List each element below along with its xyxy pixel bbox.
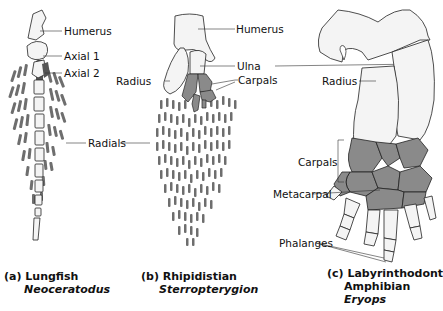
label-carpals-c: Carpals <box>298 156 338 168</box>
labyrinthodont-limb <box>312 10 436 262</box>
label-axial-1: Axial 1 <box>64 50 100 62</box>
label-axial-2: Axial 2 <box>64 67 100 79</box>
rhipidistian-radials <box>155 90 236 246</box>
label-carpals-b: Carpals <box>238 74 278 86</box>
eryops-radius <box>354 66 399 148</box>
label-radius-c: Radius <box>322 75 357 87</box>
caption-c-genus: Eryops <box>327 293 443 306</box>
label-phalanges: Phalanges <box>279 237 333 249</box>
caption-a-genus: Neoceratodus <box>4 283 110 296</box>
label-humerus-b: Humerus <box>236 23 284 35</box>
caption-c-title: (c) Labyrinthodont <box>327 267 443 280</box>
label-humerus-a: Humerus <box>64 25 112 37</box>
caption-b: (b) Rhipidistian Sterropterygion <box>141 270 258 296</box>
caption-b-title: (b) Rhipidistian <box>141 270 237 283</box>
caption-c: (c) Labyrinthodont Amphibian Eryops <box>327 267 443 306</box>
caption-b-genus: Sterropterygion <box>141 283 258 296</box>
label-radials: Radials <box>88 137 126 149</box>
label-metacarpal: Metacarpal <box>273 188 332 200</box>
eryops-ulna <box>392 40 434 140</box>
caption-a-title: (a) Lungfish <box>4 270 78 283</box>
lungfish-fin <box>8 10 150 240</box>
label-ulna: Ulna <box>237 60 261 72</box>
caption-c-line2: Amphibian <box>327 280 443 293</box>
label-radius-b: Radius <box>116 75 151 87</box>
caption-a: (a) Lungfish Neoceratodus <box>4 270 110 296</box>
